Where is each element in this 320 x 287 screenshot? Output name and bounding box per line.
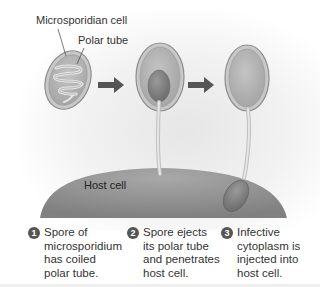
arrow-icon: [188, 77, 214, 93]
host-cell: [40, 168, 287, 218]
step-2-line-4: host cell.: [143, 267, 220, 281]
step-1-line-2: microsporidium: [44, 240, 122, 254]
step-3-line-2: cytoplasm is: [237, 240, 300, 254]
spore-2: [136, 43, 184, 174]
step-2: 2 Spore ejects its polar tube and penetr…: [127, 226, 220, 280]
step-3-line-4: host cell.: [237, 267, 300, 281]
label-polar-tube: Polar tube: [78, 34, 128, 46]
step-1-line-3: has coiled: [44, 253, 122, 267]
arrow-icon: [98, 77, 124, 93]
label-microsporidian-cell: Microsporidian cell: [36, 14, 127, 26]
step-2-line-2: its polar tube: [143, 240, 220, 254]
step-1-line-4: polar tube.: [44, 267, 122, 281]
step-number-badge: 1: [28, 227, 40, 239]
step-1: 1 Spore of microsporidium has coiled pol…: [28, 226, 122, 280]
step-1-line-1: Spore of: [44, 226, 122, 240]
step-number-badge: 2: [127, 227, 139, 239]
label-host-cell: Host cell: [84, 179, 126, 191]
step-2-line-1: Spore ejects: [143, 226, 220, 240]
step-3-line-3: injected into: [237, 253, 300, 267]
step-3-line-1: Infective: [237, 226, 300, 240]
step-3: 3 Infective cytoplasm is injected into h…: [221, 226, 300, 280]
step-2-line-3: and penetrates: [143, 253, 220, 267]
step-number-badge: 3: [221, 227, 233, 239]
spore-1: [37, 44, 99, 115]
